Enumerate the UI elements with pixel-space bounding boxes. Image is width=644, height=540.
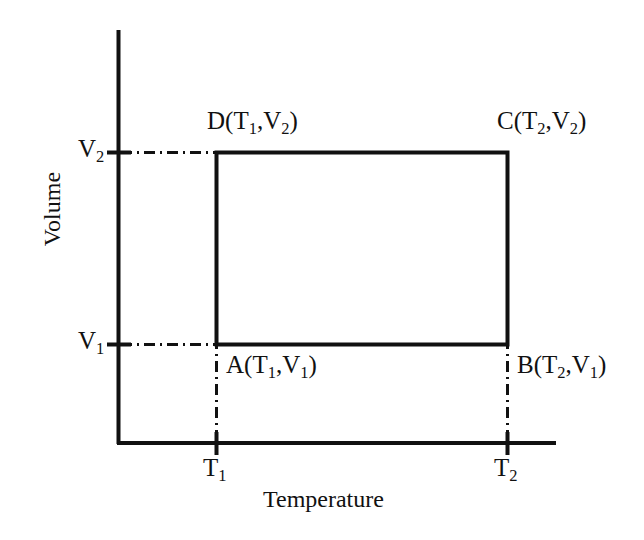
- y-tick-label-v2: V2: [78, 136, 104, 161]
- x-axis-title: Temperature: [263, 487, 384, 511]
- point-label-d: D(T1,V2): [207, 108, 298, 133]
- plot-canvas: [0, 0, 644, 540]
- y-tick-label-v1: V1: [78, 328, 104, 353]
- point-label-a: A(T1,V1): [226, 352, 317, 377]
- point-label-c: C(T2,V2): [497, 108, 586, 133]
- point-label-b: B(T2,V1): [517, 352, 606, 377]
- x-tick-label-t2: T2: [494, 455, 518, 480]
- cycle-rectangle: [217, 153, 508, 345]
- x-tick-label-t1: T1: [203, 455, 227, 480]
- y-axis-title: Volume: [40, 149, 64, 269]
- thermodynamic-cycle-figure: D(T1,V2) C(T2,V2) A(T1,V1) B(T2,V1) V2 V…: [0, 0, 644, 540]
